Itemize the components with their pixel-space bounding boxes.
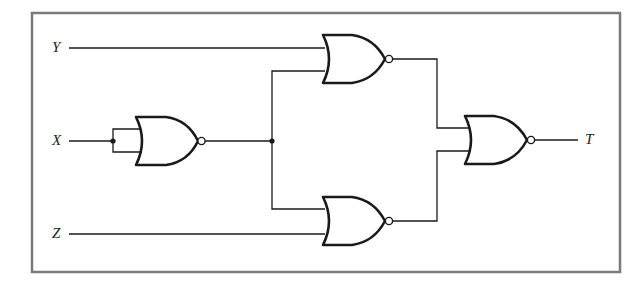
junction-dot-x (110, 138, 115, 143)
junction-dot-n1 (269, 138, 274, 143)
nor-gate-4 (465, 116, 535, 164)
logic-circuit-diagram (0, 0, 644, 286)
input-label-z: Z (52, 226, 60, 241)
nor-gate-2 (323, 35, 393, 83)
output-label-t: T (585, 132, 593, 147)
nor-gate-3 (323, 197, 393, 245)
wire-n2 (393, 59, 470, 128)
input-label-y: Y (52, 40, 60, 55)
input-label-x: X (52, 133, 61, 148)
nor-gate-1 (136, 117, 205, 165)
wire-n1-branches (272, 71, 325, 209)
wire-x-in1 (113, 129, 140, 141)
wire-n3 (393, 151, 470, 221)
wire-x-in2 (113, 141, 140, 152)
